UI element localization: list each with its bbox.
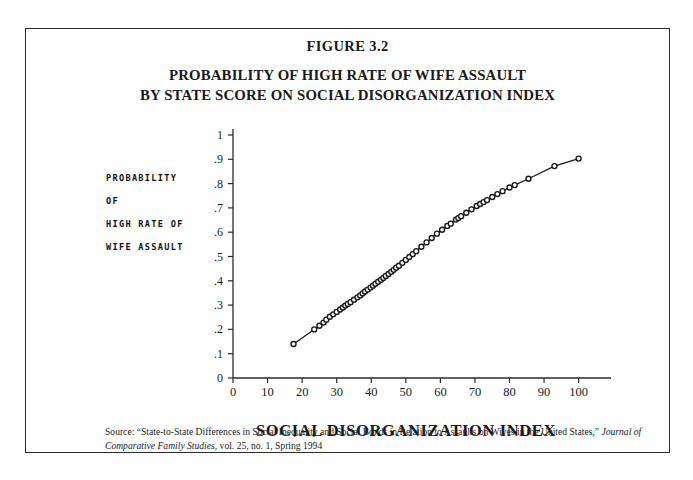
svg-text:100: 100 bbox=[569, 385, 588, 399]
svg-text:90: 90 bbox=[538, 385, 551, 399]
svg-text:.8: .8 bbox=[214, 177, 223, 191]
svg-text:0: 0 bbox=[230, 385, 236, 399]
figure-page: FIGURE 3.2 PROBABILITY OF HIGH RATE OF W… bbox=[0, 0, 693, 480]
svg-text:50: 50 bbox=[400, 385, 413, 399]
source-note: Source: “State-to-State Differences in S… bbox=[105, 425, 649, 452]
svg-text:0: 0 bbox=[217, 371, 223, 385]
source-note-prefix: Source: “State-to-State Differences in S… bbox=[105, 426, 601, 437]
svg-text:40: 40 bbox=[365, 385, 378, 399]
svg-text:.6: .6 bbox=[214, 225, 223, 239]
svg-text:1: 1 bbox=[217, 128, 223, 142]
svg-text:.9: .9 bbox=[214, 152, 223, 166]
svg-text:.1: .1 bbox=[214, 347, 223, 361]
svg-text:20: 20 bbox=[296, 385, 309, 399]
svg-text:.3: .3 bbox=[214, 298, 223, 312]
svg-text:70: 70 bbox=[469, 385, 482, 399]
plot-axes: 0.1.2.3.4.5.6.7.8.9101020304050607080901… bbox=[214, 128, 611, 399]
svg-text:10: 10 bbox=[261, 385, 274, 399]
plot-series bbox=[291, 156, 581, 346]
svg-text:30: 30 bbox=[330, 385, 343, 399]
svg-text:.4: .4 bbox=[214, 274, 223, 288]
plot-area: 0.1.2.3.4.5.6.7.8.9101020304050607080901… bbox=[26, 29, 671, 454]
source-note-suffix: , vol. 25, no. 1, Spring 1994 bbox=[215, 440, 322, 451]
svg-text:80: 80 bbox=[503, 385, 516, 399]
figure-frame: FIGURE 3.2 PROBABILITY OF HIGH RATE OF W… bbox=[25, 28, 670, 453]
svg-text:.7: .7 bbox=[214, 201, 223, 215]
scatter-plot-svg: 0.1.2.3.4.5.6.7.8.9101020304050607080901… bbox=[26, 29, 671, 454]
svg-text:60: 60 bbox=[434, 385, 447, 399]
svg-text:.2: .2 bbox=[214, 322, 223, 336]
svg-text:.5: .5 bbox=[214, 250, 223, 264]
